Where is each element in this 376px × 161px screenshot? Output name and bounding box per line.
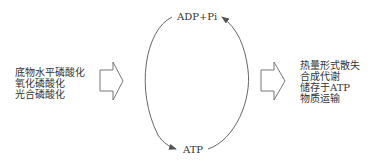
output-block-arrow bbox=[261, 62, 285, 100]
output-item: 热量形式散失 bbox=[300, 60, 360, 71]
cycle-arc-right bbox=[208, 17, 249, 149]
input-block-arrow bbox=[100, 62, 123, 100]
output-item: 合成代谢 bbox=[300, 71, 340, 82]
input-item: 氧化磷酸化 bbox=[15, 78, 65, 89]
cycle-arc-left bbox=[145, 17, 176, 149]
output-item: 储存于ATP bbox=[300, 82, 350, 93]
input-item: 光合磷酸化 bbox=[15, 89, 65, 100]
adp-pi-label: ADP+Pi bbox=[177, 11, 217, 22]
input-item: 底物水平磷酸化 bbox=[15, 67, 85, 78]
output-item: 物质运输 bbox=[300, 93, 340, 104]
atp-label: ATP bbox=[183, 144, 203, 155]
